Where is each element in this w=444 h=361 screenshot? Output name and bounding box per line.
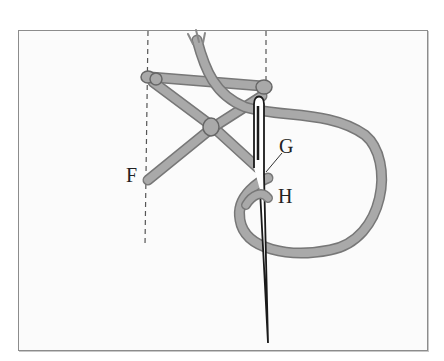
needle xyxy=(254,97,282,344)
left-dashed-guide xyxy=(145,31,148,246)
label-F: F xyxy=(126,165,137,185)
stitch-diagram xyxy=(0,0,444,361)
label-H: H xyxy=(278,186,292,206)
label-G: G xyxy=(279,136,293,156)
